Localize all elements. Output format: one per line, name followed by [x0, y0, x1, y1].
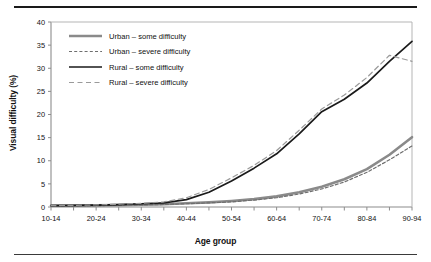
series-line — [51, 137, 412, 205]
chart-legend: Urban – some difficultyUrban – severe di… — [69, 32, 191, 88]
y-tick-label: 30 — [37, 64, 45, 73]
legend-label: Urban – some difficulty — [109, 32, 186, 41]
x-tick-label: 50-54 — [222, 214, 241, 223]
x-tick-label: 10-14 — [42, 214, 61, 223]
series-line — [51, 55, 412, 205]
x-tick-label: 30-34 — [132, 214, 151, 223]
x-tick-label-group: 10-1420-2430-3440-4450-5460-6470-7480-84… — [42, 214, 422, 223]
y-tick-label: 40 — [37, 18, 45, 27]
legend-label: Urban – severe difficulty — [109, 47, 191, 56]
y-tick-label: 20 — [37, 110, 45, 119]
x-tick-label: 20-24 — [87, 214, 106, 223]
x-tick-label: 70-74 — [312, 214, 331, 223]
y-tick-label: 35 — [37, 41, 45, 50]
data-series-group — [51, 41, 412, 205]
x-tick-label: 40-44 — [177, 214, 196, 223]
legend-label: Rural – severe difficulty — [109, 78, 188, 87]
axis-lines-group — [51, 22, 412, 207]
y-tick-label: 0 — [41, 203, 45, 212]
y-tick-label: 10 — [37, 156, 45, 165]
x-tick-label: 80-84 — [357, 214, 376, 223]
legend-label: Rural – some difficulty — [109, 63, 184, 72]
series-line — [51, 41, 412, 205]
y-tick-label: 25 — [37, 87, 45, 96]
figure-container: Visual difficulty (%) Age group 05101520… — [0, 0, 431, 262]
x-tick-label: 90-94 — [403, 214, 422, 223]
y-tick-label: 15 — [37, 133, 45, 142]
y-tick-label-group: 0510152025303540 — [37, 18, 45, 212]
line-chart-plot: 0510152025303540 10-1420-2430-3440-4450-… — [0, 0, 431, 262]
y-tick-label: 5 — [41, 180, 45, 189]
x-tick-label: 60-64 — [267, 214, 286, 223]
series-line — [51, 146, 412, 206]
